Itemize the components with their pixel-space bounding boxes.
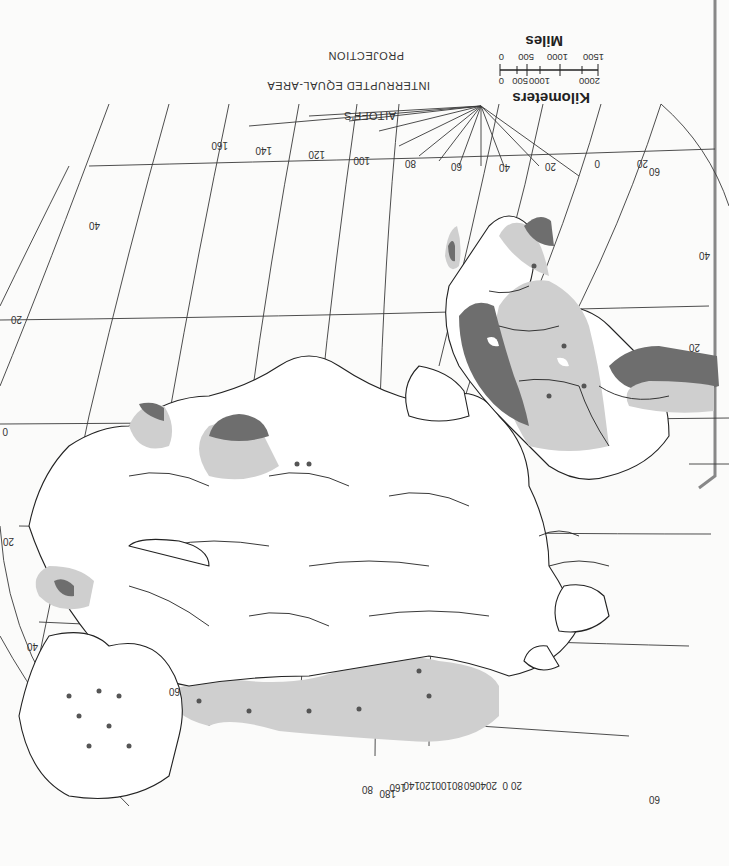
arabia xyxy=(406,366,469,421)
fan-label-0: 0 xyxy=(502,780,508,791)
km-tick-500: 500 xyxy=(512,76,528,87)
meridian-label-140: 140 xyxy=(255,145,272,156)
mile-tick-0: 0 xyxy=(499,52,504,63)
fan-label-20e: 20 xyxy=(510,780,522,791)
inset-frame xyxy=(689,0,729,488)
mile-tick-1500: 1500 xyxy=(583,52,604,63)
parallel-label-60s-right: 60 xyxy=(648,794,660,805)
parallel-label-60s-left: 60 xyxy=(168,686,180,697)
projection-title: AITOFF'S INTERRUPTED EQUAL-AREA PROJECTI… xyxy=(267,50,430,122)
meridian-labels: 20 0 20 40 60 80 100 120 140 160 xyxy=(211,140,648,173)
scale-kilometers-title: Kilometers xyxy=(512,90,590,107)
scale-miles-title: Miles xyxy=(525,33,563,50)
km-tick-0: 0 xyxy=(499,76,504,87)
australia xyxy=(19,633,182,799)
parallel-label-20n: 20 xyxy=(10,314,22,325)
fan-label-80w: 80 xyxy=(361,784,373,795)
meridian-label-120: 120 xyxy=(308,149,325,160)
scale-bar: Kilometers 2000 1000 500 0 1500 1000 500… xyxy=(499,33,604,107)
fan-label-80: 80 xyxy=(451,780,463,791)
world-map: Kilometers 2000 1000 500 0 1500 1000 500… xyxy=(0,0,729,866)
meridian-label-160: 160 xyxy=(211,140,228,151)
map-container: Kilometers 2000 1000 500 0 1500 1000 500… xyxy=(0,0,729,866)
parallel-label-60-right: 60 xyxy=(648,166,660,177)
fan-label-40: 40 xyxy=(474,780,486,791)
fan-label-140: 140 xyxy=(403,780,420,791)
meridian-label-60: 60 xyxy=(450,161,462,172)
fan-label-60: 60 xyxy=(463,780,475,791)
meridian-label-100: 100 xyxy=(353,155,370,166)
parallel-label-40s: 40 xyxy=(26,641,38,652)
km-tick-1000: 1000 xyxy=(529,76,550,87)
fan-label-20: 20 xyxy=(485,780,497,791)
title-line-2: INTERRUPTED EQUAL-AREA xyxy=(267,80,430,92)
meridian-label-40: 40 xyxy=(498,162,510,173)
parallel-label-40n: 40 xyxy=(88,220,100,231)
meridian-label-20: 20 xyxy=(544,161,556,172)
meridian-label-80: 80 xyxy=(404,158,416,169)
parallel-label-0: 0 xyxy=(2,426,8,437)
title-line-3: PROJECTION xyxy=(328,50,404,62)
parallel-label-40-right: 40 xyxy=(698,250,710,261)
km-tick-2000: 2000 xyxy=(579,76,600,87)
pole-fan-labels: 80 180 160 140 120 100 80 60 40 20 0 20 xyxy=(361,780,522,799)
parallel-label-20s: 20 xyxy=(2,536,14,547)
title-line-1: AITOFF'S xyxy=(344,110,396,122)
meridian-label-0: 0 xyxy=(594,158,600,169)
fan-label-120: 120 xyxy=(419,780,436,791)
parallel-label-20-right: 20 xyxy=(688,342,700,353)
mile-tick-500: 500 xyxy=(518,52,534,63)
madagascar xyxy=(445,226,461,269)
meridian-label-20e: 20 xyxy=(636,158,648,169)
fan-label-100: 100 xyxy=(435,780,452,791)
mile-tick-1000: 1000 xyxy=(547,52,568,63)
